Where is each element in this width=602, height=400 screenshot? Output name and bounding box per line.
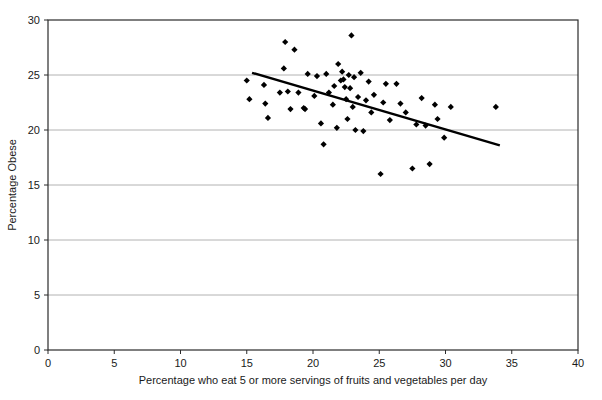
y-tick-label: 5: [34, 289, 40, 301]
data-point-marker: [403, 109, 409, 115]
x-axis-tick-labels: 0510152025303540: [45, 357, 584, 369]
data-point-marker: [383, 81, 389, 87]
data-point-marker: [265, 115, 271, 121]
chart-canvas: 0510152025303540 051015202530 Percentage…: [0, 0, 602, 400]
data-point-marker: [434, 116, 440, 122]
scatter-chart: 0510152025303540 051015202530 Percentage…: [0, 0, 602, 400]
data-point-marker: [305, 71, 311, 77]
y-tick-label: 0: [34, 344, 40, 356]
data-point-marker: [342, 84, 348, 90]
data-point-marker: [262, 101, 268, 107]
data-point-marker: [295, 90, 301, 96]
data-point-marker: [311, 93, 317, 99]
data-point-marker: [282, 39, 288, 45]
data-point-marker: [339, 69, 345, 75]
data-point-marker: [287, 106, 293, 112]
y-tick-label: 30: [28, 14, 40, 26]
data-point-marker: [246, 96, 252, 102]
data-point-marker: [277, 90, 283, 96]
data-point-marker: [331, 83, 337, 89]
x-tick-label: 40: [572, 357, 584, 369]
y-tick-label: 15: [28, 179, 40, 191]
y-axis-title: Percentage Obese: [6, 139, 18, 231]
data-point-marker: [281, 65, 287, 71]
data-point-marker: [330, 102, 336, 108]
data-point-marker: [321, 141, 327, 147]
x-tick-label: 0: [45, 357, 51, 369]
data-point-marker: [441, 135, 447, 141]
data-point-marker: [419, 95, 425, 101]
data-point-marker: [368, 109, 374, 115]
data-point-marker: [350, 104, 356, 110]
data-point-marker: [285, 88, 291, 94]
x-tick-label: 25: [373, 357, 385, 369]
x-tick-label: 35: [506, 357, 518, 369]
data-points: [244, 32, 499, 177]
data-point-marker: [397, 101, 403, 107]
x-tick-label: 15: [241, 357, 253, 369]
y-tick-label: 20: [28, 124, 40, 136]
y-tick-label: 25: [28, 69, 40, 81]
data-point-marker: [347, 85, 353, 91]
data-point-marker: [261, 82, 267, 88]
x-tick-label: 20: [307, 357, 319, 369]
data-point-marker: [318, 120, 324, 126]
x-tick-label: 30: [439, 357, 451, 369]
data-point-marker: [291, 47, 297, 53]
data-point-marker: [244, 77, 250, 83]
data-point-marker: [427, 161, 433, 167]
data-point-marker: [366, 79, 372, 85]
data-point-marker: [344, 116, 350, 122]
data-point-marker: [363, 97, 369, 103]
data-point-marker: [493, 104, 499, 110]
data-point-marker: [387, 117, 393, 123]
x-axis-title: Percentage who eat 5 or more servings of…: [139, 374, 488, 386]
data-point-marker: [377, 171, 383, 177]
data-point-marker: [432, 102, 438, 108]
x-tick-label: 10: [174, 357, 186, 369]
y-axis-tick-labels: 051015202530: [28, 14, 40, 356]
y-tick-label: 10: [28, 234, 40, 246]
data-point-marker: [335, 61, 341, 67]
data-point-marker: [448, 104, 454, 110]
data-point-marker: [371, 92, 377, 98]
data-point-marker: [380, 99, 386, 105]
x-tick-label: 5: [111, 357, 117, 369]
data-point-marker: [409, 165, 415, 171]
data-point-marker: [346, 72, 352, 78]
data-point-marker: [352, 127, 358, 133]
data-point-marker: [355, 94, 361, 100]
tick-marks: [44, 20, 578, 354]
data-point-marker: [360, 128, 366, 134]
grid-lines: [48, 75, 578, 295]
data-point-marker: [393, 81, 399, 87]
data-point-marker: [323, 71, 329, 77]
data-point-marker: [348, 32, 354, 38]
data-point-marker: [314, 73, 320, 79]
